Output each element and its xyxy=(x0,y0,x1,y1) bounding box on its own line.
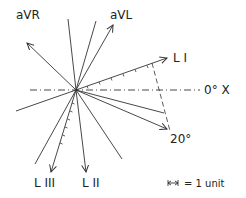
label-x-axis: 0° X xyxy=(204,83,230,97)
label-avl: aVL xyxy=(110,8,133,22)
avr-vector xyxy=(27,43,76,90)
label-angle-20: 20° xyxy=(170,132,191,146)
lead1-vector xyxy=(76,58,167,90)
unit-legend-text: = 1 unit xyxy=(184,178,225,189)
lead3-unit-ticks xyxy=(60,103,75,144)
label-avr: aVR xyxy=(16,8,40,22)
lead-axis-diagram: aVR aVL L I 0° X 20° L III L II = 1 unit xyxy=(0,0,246,198)
lead3-vector xyxy=(51,90,76,172)
label-lead1: L I xyxy=(173,51,187,65)
label-lead3: L III xyxy=(34,176,55,190)
arrow-lead-lines xyxy=(27,25,167,172)
plain-lead-lines xyxy=(16,19,164,164)
projection-dashed-line xyxy=(152,63,170,131)
resultant-20deg-vector xyxy=(76,90,167,129)
unit-legend: = 1 unit xyxy=(168,178,225,189)
label-lead2: L II xyxy=(82,176,100,190)
unit-scale-icon xyxy=(168,180,178,186)
avl-vector xyxy=(76,25,113,90)
lead1-unit-ticks xyxy=(87,66,148,89)
